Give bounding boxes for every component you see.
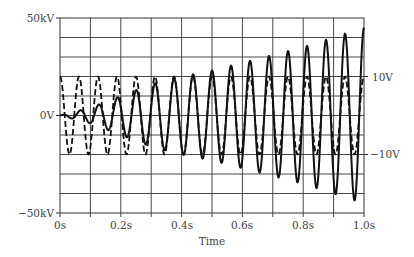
grid-lines [60, 18, 364, 217]
x-tick-label-0-2: 0.2s [110, 219, 132, 231]
x-tick-label-1-0: 1.0s [353, 219, 375, 231]
x-tick-label-0-6: 0.6s [231, 219, 253, 231]
waveform-chart: 50kV 0V −50kV 10V −10V 0s 0.2s 0.4s 0.6s… [0, 0, 414, 257]
y-left-label-zero: 0V [40, 109, 55, 121]
x-axis-title: Time [199, 235, 226, 247]
y-left-label-top: 50kV [27, 12, 55, 24]
y-left-label-bottom: −50kV [18, 207, 55, 219]
x-tick-label-0: 0s [54, 219, 66, 231]
x-tick-label-0-8: 0.8s [292, 219, 314, 231]
y-right-label-bottom: −10V [370, 148, 400, 160]
x-tick-label-0-4: 0.4s [171, 219, 193, 231]
y-right-label-top: 10V [372, 71, 393, 83]
